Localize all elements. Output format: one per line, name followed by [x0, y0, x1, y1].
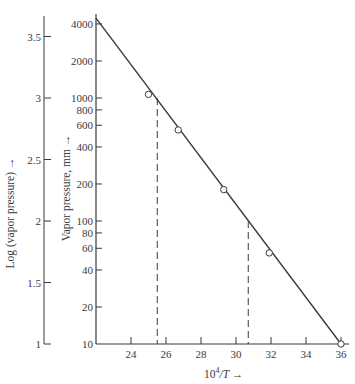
data-point-circle — [175, 127, 181, 133]
x-axis-title: 104/T → — [204, 366, 243, 380]
data-point-circle — [266, 250, 272, 256]
log-tick-label: 2 — [36, 215, 42, 227]
data-point-circle — [221, 186, 227, 192]
pressure-tick-label: 100 — [77, 215, 94, 227]
log-tick-label: 2.5 — [27, 154, 41, 166]
x-tick-label: 34 — [301, 348, 313, 360]
data-point-circle — [145, 91, 151, 97]
x-tick-label: 30 — [231, 348, 243, 360]
fitted-line — [96, 18, 341, 344]
pressure-tick-label: 400 — [77, 141, 94, 153]
x-tick-label: 26 — [161, 348, 173, 360]
pressure-tick-label: 200 — [77, 178, 94, 190]
x-tick-label: 36 — [336, 348, 348, 360]
pressure-axis-title: Vapor pressure, mm → — [60, 135, 73, 242]
x-tick-label: 28 — [196, 348, 208, 360]
log-axis-title: Log (vapor pressure) → — [4, 158, 17, 269]
log-tick-label: 3 — [36, 92, 42, 104]
pressure-tick-label: 4000 — [71, 18, 94, 30]
data-point-circle — [338, 341, 344, 347]
log-tick-label: 3.5 — [27, 31, 41, 43]
dashed-guides — [157, 98, 248, 344]
data-series — [96, 18, 344, 347]
pressure-tick-label: 600 — [77, 119, 94, 131]
x-tick-label: 24 — [126, 348, 138, 360]
pressure-tick-label: 10 — [82, 338, 94, 350]
vapor-pressure-chart: 3.532.521.51 400020001000800600400200100… — [0, 0, 355, 384]
pressure-tick-label: 60 — [82, 242, 94, 254]
pressure-tick-label: 20 — [82, 301, 94, 313]
pressure-tick-label: 40 — [82, 264, 94, 276]
log-tick-label: 1.5 — [27, 277, 41, 289]
pressure-tick-label: 80 — [82, 227, 94, 239]
pressure-tick-label: 1000 — [71, 92, 94, 104]
pressure-tick-label: 2000 — [71, 55, 94, 67]
x-tick-label: 32 — [266, 348, 277, 360]
log-axis: 3.532.521.51 — [27, 16, 51, 350]
pressure-tick-label: 800 — [77, 104, 94, 116]
log-tick-label: 1 — [36, 338, 42, 350]
plot-axes: 4000200010008006004002001008060402010242… — [71, 14, 349, 360]
